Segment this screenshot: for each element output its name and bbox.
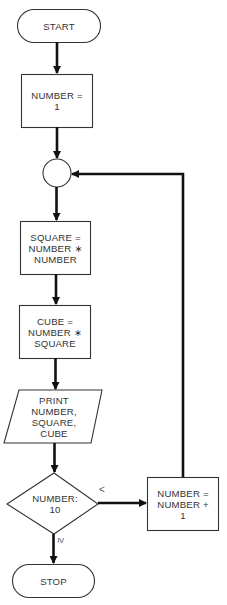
start-label: START bbox=[17, 9, 101, 43]
decision-label: NUMBER: 10 bbox=[15, 484, 95, 524]
stop-label: STOP bbox=[12, 564, 95, 598]
increment-label: NUMBER = NUMBER + 1 bbox=[147, 477, 219, 531]
square-label: SQUARE = NUMBER ∗ NUMBER bbox=[20, 221, 91, 275]
edge-label-less-than: < bbox=[99, 484, 105, 495]
loop-connector-circle bbox=[43, 159, 71, 187]
init-label: NUMBER = 1 bbox=[21, 74, 93, 128]
flowchart: START NUMBER = 1 SQUARE = NUMBER ∗ NUMBE… bbox=[0, 0, 227, 605]
cube-label: CUBE = NUMBER ∗ SQUARE bbox=[19, 305, 91, 359]
edge-label-greater-equal: ≥ bbox=[56, 538, 67, 544]
print-label: PRINT NUMBER, SQUARE, CUBE bbox=[14, 390, 94, 443]
